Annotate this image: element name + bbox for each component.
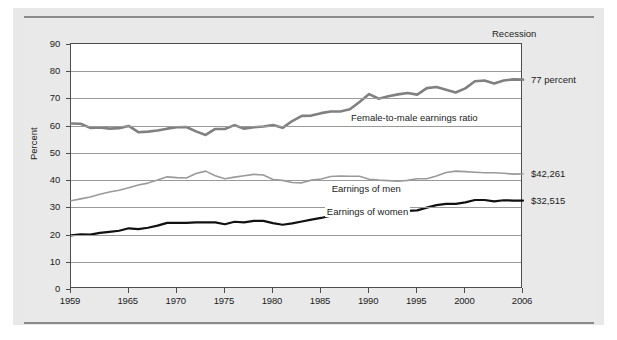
- x-tick-mark: [416, 288, 417, 293]
- x-tick-mark: [70, 288, 71, 293]
- x-tick-label: 1980: [262, 295, 282, 306]
- series-line: [71, 171, 523, 201]
- x-tick-mark: [176, 288, 177, 293]
- y-tick-mark: [66, 126, 71, 127]
- series-lines: [71, 44, 523, 289]
- x-tick-mark: [224, 288, 225, 293]
- y-tick-mark: [66, 262, 71, 263]
- y-tick-label: 40: [28, 174, 60, 185]
- y-tick-label: 60: [28, 119, 60, 130]
- bottom-rule: [24, 322, 594, 324]
- x-tick-label: 1970: [166, 295, 186, 306]
- x-tick-label: 1985: [310, 295, 330, 306]
- y-tick-label: 50: [28, 146, 60, 157]
- y-tick-label: 20: [28, 228, 60, 239]
- gridline: [71, 153, 521, 154]
- x-tick-mark: [272, 288, 273, 293]
- x-tick-mark: [522, 288, 523, 293]
- y-tick-label: 30: [28, 201, 60, 212]
- x-axis: 1959196519701975198019851990199520002006: [70, 288, 522, 314]
- chart-figure: Percent Recession 0102030405060708090 19…: [0, 0, 617, 340]
- y-tick-label: 70: [28, 92, 60, 103]
- x-tick-label: 1990: [358, 295, 378, 306]
- y-tick-mark: [66, 71, 71, 72]
- x-tick-mark: [464, 288, 465, 293]
- ratio-end-value-label: 77 percent: [531, 73, 576, 84]
- top-rule: [24, 16, 594, 18]
- y-tick-mark: [66, 235, 71, 236]
- y-tick-mark: [66, 180, 71, 181]
- gridline: [71, 180, 521, 181]
- x-tick-label: 1975: [214, 295, 234, 306]
- x-tick-label: 2000: [454, 295, 474, 306]
- x-tick-label: 1959: [60, 295, 80, 306]
- men-end-value-label: $42,261: [531, 167, 565, 178]
- plot-area: [70, 43, 522, 288]
- men-series-label: Earnings of men: [330, 183, 403, 194]
- gridline: [71, 126, 521, 127]
- gridline: [71, 235, 521, 236]
- y-tick-mark: [66, 207, 71, 208]
- y-tick-mark: [66, 44, 71, 45]
- x-tick-mark: [368, 288, 369, 293]
- y-tick-mark: [66, 153, 71, 154]
- gridline: [71, 98, 521, 99]
- x-tick-label: 1995: [406, 295, 426, 306]
- recession-legend-label: Recession: [492, 28, 536, 39]
- x-tick-label: 2006: [512, 295, 532, 306]
- y-tick-mark: [66, 98, 71, 99]
- x-tick-mark: [128, 288, 129, 293]
- x-tick-mark: [320, 288, 321, 293]
- series-line: [71, 200, 523, 235]
- y-tick-label: 0: [28, 283, 60, 294]
- ratio-series-label: Female-to-male earnings ratio: [349, 112, 480, 123]
- x-tick-label: 1965: [118, 295, 138, 306]
- gridline: [71, 262, 521, 263]
- y-tick-label: 10: [28, 255, 60, 266]
- y-tick-label: 80: [28, 65, 60, 76]
- gridline: [71, 71, 521, 72]
- y-tick-label: 90: [28, 38, 60, 49]
- gridline: [71, 207, 521, 208]
- women-series-label: Earnings of women: [325, 206, 410, 217]
- women-end-value-label: $32,515: [531, 194, 565, 205]
